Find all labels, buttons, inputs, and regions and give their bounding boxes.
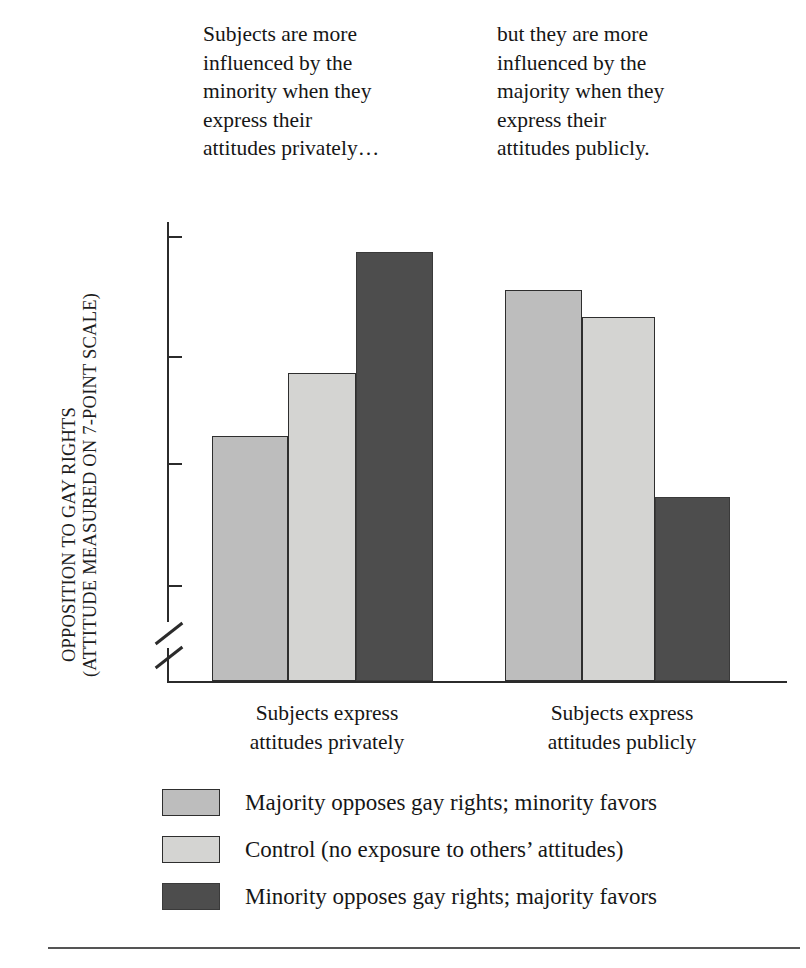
legend-item-majority: Majority opposes gay rights; minority fa… bbox=[162, 783, 802, 821]
legend: Majority opposes gay rights; minority fa… bbox=[162, 783, 802, 924]
axis-break-mark-lower bbox=[155, 646, 184, 669]
bar-private-minority bbox=[356, 252, 433, 681]
x-axis-line bbox=[167, 681, 787, 683]
bar-public-majority bbox=[505, 290, 582, 681]
legend-swatch-majority bbox=[162, 789, 220, 816]
bar-public-control bbox=[582, 317, 655, 681]
legend-label-majority: Majority opposes gay rights; minority fa… bbox=[245, 789, 657, 816]
bar-private-control bbox=[288, 373, 356, 681]
legend-swatch-control bbox=[162, 836, 220, 863]
bar-private-majority bbox=[212, 436, 288, 681]
legend-label-control: Control (no exposure to others’ attitude… bbox=[245, 836, 623, 863]
category-label-private: Subjects express attitudes privately bbox=[192, 699, 462, 756]
legend-item-minority: Minority opposes gay rights; majority fa… bbox=[162, 877, 802, 915]
category-label-public: Subjects express attitudes publicly bbox=[487, 699, 757, 756]
y-axis-line bbox=[167, 222, 169, 622]
bar-public-minority bbox=[655, 497, 730, 681]
plot-area: 4.5 4.0 3.5 3.0 bbox=[0, 0, 806, 700]
legend-item-control: Control (no exposure to others’ attitude… bbox=[162, 830, 802, 868]
bar-chart-figure: Subjects are more influenced by the mino… bbox=[0, 0, 806, 968]
legend-swatch-minority bbox=[162, 883, 220, 910]
axis-break-mark-upper bbox=[155, 622, 184, 645]
legend-label-minority: Minority opposes gay rights; majority fa… bbox=[245, 883, 657, 910]
bottom-divider bbox=[48, 947, 800, 949]
y-axis-line-lower bbox=[167, 648, 169, 683]
